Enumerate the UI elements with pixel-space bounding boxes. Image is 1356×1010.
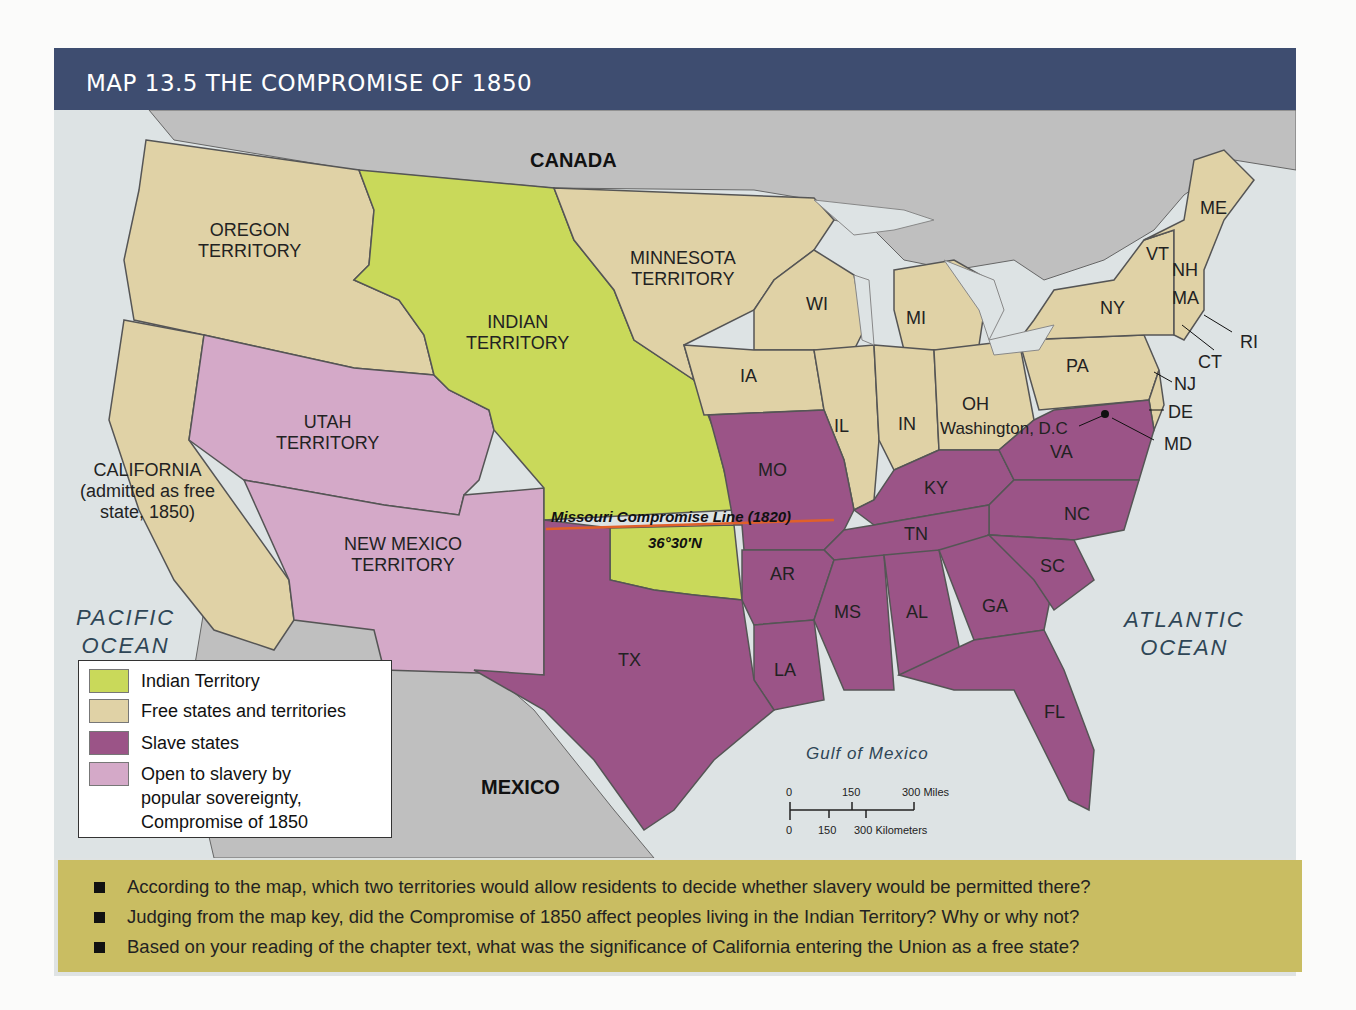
state-CT: CT (1198, 352, 1222, 373)
state-VA: VA (1050, 442, 1073, 463)
state-NH: NH (1172, 260, 1198, 281)
legend-item-slave: Slave states (89, 731, 239, 755)
question-text: According to the map, which two territor… (127, 876, 1091, 898)
label-atlantic-ocean: ATLANTIC OCEAN (1124, 606, 1245, 662)
label-pacific-ocean: PACIFIC OCEAN (76, 604, 175, 660)
label-oregon-territory: OREGON TERRITORY (198, 220, 301, 262)
map-legend: Indian Territory Free states and territo… (78, 660, 392, 838)
state-TX: TX (618, 650, 641, 671)
legend-line-3: Compromise of 1850 (141, 810, 308, 834)
question-box: According to the map, which two territor… (58, 860, 1302, 972)
swatch-free (89, 699, 129, 723)
legend-item-free: Free states and territories (89, 699, 346, 723)
label-washington-dc: Washington, D.C (940, 418, 1068, 439)
legend-label: Open to slavery by popular sovereignty, … (141, 762, 308, 834)
pacific-line-2: OCEAN (76, 632, 175, 660)
minnesota-line-1: MINNESOTA (630, 248, 736, 269)
new-mexico-line-1: NEW MEXICO (344, 534, 462, 555)
state-MO: MO (758, 460, 787, 481)
state-FL: FL (1044, 702, 1065, 723)
atlantic-line-2: OCEAN (1124, 634, 1245, 662)
question-text: Based on your reading of the chapter tex… (127, 936, 1079, 958)
new-mexico-line-2: TERRITORY (344, 555, 462, 576)
state-AR: AR (770, 564, 795, 585)
minnesota-line-2: TERRITORY (630, 269, 736, 290)
swatch-popular-sovereignty (89, 762, 129, 786)
pacific-line-1: PACIFIC (76, 604, 175, 632)
state-MD: MD (1164, 434, 1192, 455)
bullet-icon (94, 912, 105, 923)
state-AL: AL (906, 602, 928, 623)
scale-km-0: 0 (786, 824, 792, 836)
atlantic-line-1: ATLANTIC (1124, 606, 1245, 634)
latitude-label: 36°30′N (648, 534, 702, 551)
question-3: Based on your reading of the chapter tex… (94, 936, 1079, 958)
scale-miles-300: 300 Miles (902, 786, 949, 798)
state-DE: DE (1168, 402, 1193, 423)
map-title-bar: MAP 13.5 THE COMPROMISE OF 1850 (54, 48, 1296, 110)
swatch-slave (89, 731, 129, 755)
state-MS: MS (834, 602, 861, 623)
legend-label: Free states and territories (141, 699, 346, 723)
label-gulf-of-mexico: Gulf of Mexico (806, 744, 929, 764)
label-new-mexico-territory: NEW MEXICO TERRITORY (344, 534, 462, 576)
state-TN: TN (904, 524, 928, 545)
label-indian-territory: INDIAN TERRITORY (466, 312, 569, 354)
state-NC: NC (1064, 504, 1090, 525)
question-2: Judging from the map key, did the Compro… (94, 906, 1079, 928)
oregon-line-1: OREGON (198, 220, 301, 241)
state-NY: NY (1100, 298, 1125, 319)
state-MI: MI (906, 308, 926, 329)
legend-line-1: Open to slavery by (141, 762, 308, 786)
scale-miles-150: 150 (842, 786, 860, 798)
missouri-compromise-line-label: Missouri Compromise Line (1820) (551, 508, 791, 525)
indian-line-2: TERRITORY (466, 333, 569, 354)
state-MA: MA (1172, 288, 1199, 309)
california-line-3: state, 1850) (80, 502, 215, 523)
scale-km-150: 150 (818, 824, 836, 836)
indian-line-1: INDIAN (466, 312, 569, 333)
label-utah-territory: UTAH TERRITORY (276, 412, 379, 454)
state-VT: VT (1146, 244, 1169, 265)
state-IL: IL (834, 416, 849, 437)
bullet-icon (94, 942, 105, 953)
utah-line-2: TERRITORY (276, 433, 379, 454)
label-california: CALIFORNIA (admitted as free state, 1850… (80, 460, 215, 523)
legend-item-popular-sovereignty: Open to slavery by popular sovereignty, … (89, 762, 308, 834)
state-LA: LA (774, 660, 796, 681)
state-NJ: NJ (1174, 374, 1196, 395)
state-ME: ME (1200, 198, 1227, 219)
map-canvas: CANADA MEXICO PACIFIC OCEAN ATLANTIC OCE… (54, 110, 1296, 858)
swatch-indian-territory (89, 669, 129, 693)
label-minnesota-territory: MINNESOTA TERRITORY (630, 248, 736, 290)
bullet-icon (94, 882, 105, 893)
state-KY: KY (924, 478, 948, 499)
legend-label: Indian Territory (141, 669, 260, 693)
utah-line-1: UTAH (276, 412, 379, 433)
state-OH: OH (962, 394, 989, 415)
state-IN: IN (898, 414, 916, 435)
map-title: MAP 13.5 THE COMPROMISE OF 1850 (86, 70, 532, 96)
question-text: Judging from the map key, did the Compro… (127, 906, 1079, 928)
legend-label: Slave states (141, 731, 239, 755)
state-SC: SC (1040, 556, 1065, 577)
question-1: According to the map, which two territor… (94, 876, 1091, 898)
california-line-2: (admitted as free (80, 481, 215, 502)
label-mexico: MEXICO (481, 777, 560, 798)
state-IA: IA (740, 366, 757, 387)
legend-item-indian-territory: Indian Territory (89, 669, 260, 693)
legend-line-2: popular sovereignty, (141, 786, 308, 810)
state-GA: GA (982, 596, 1008, 617)
california-line-1: CALIFORNIA (80, 460, 215, 481)
oregon-line-2: TERRITORY (198, 241, 301, 262)
state-PA: PA (1066, 356, 1089, 377)
map-figure: MAP 13.5 THE COMPROMISE OF 1850 (54, 48, 1296, 976)
state-WI: WI (806, 294, 828, 315)
state-RI: RI (1240, 332, 1258, 353)
scale-km-300: 300 Kilometers (854, 824, 927, 836)
scale-miles-0: 0 (786, 786, 792, 798)
label-canada: CANADA (530, 150, 617, 171)
